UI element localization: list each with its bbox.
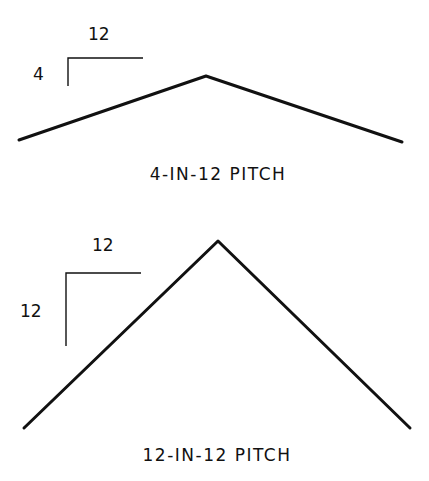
diagram-12-in-12: 12 12 12-IN-12 PITCH: [20, 235, 410, 465]
rise-label: 12: [20, 301, 42, 321]
pitch-caption: 4-IN-12 PITCH: [150, 164, 287, 184]
roof-pitch-diagrams: 12 4 4-IN-12 PITCH 12 12 12-IN-12 PITCH: [0, 0, 429, 481]
diagram-4-in-12: 12 4 4-IN-12 PITCH: [19, 24, 402, 184]
roof-line: [19, 76, 402, 142]
rise-label: 4: [33, 64, 44, 84]
roof-line: [24, 241, 410, 428]
run-label: 12: [88, 24, 110, 44]
rise-run-bracket: [68, 58, 143, 86]
rise-run-bracket: [66, 273, 141, 346]
pitch-caption: 12-IN-12 PITCH: [143, 445, 292, 465]
run-label: 12: [92, 235, 114, 255]
